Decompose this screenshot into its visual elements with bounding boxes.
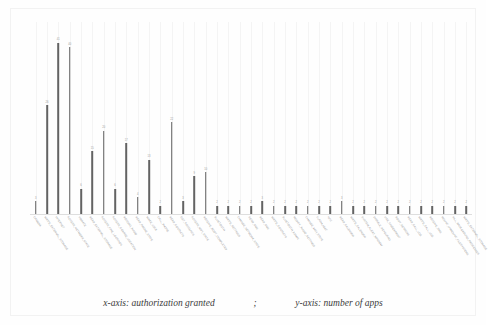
bar-group: 2 bbox=[245, 22, 256, 214]
x-tick-label: READ_SMS bbox=[259, 216, 270, 230]
bar-group: 9 bbox=[189, 22, 200, 214]
bar-value-label: 3 bbox=[262, 197, 263, 200]
x-tick-label: VIBRATE bbox=[78, 216, 87, 227]
bar-value-label: 9 bbox=[194, 172, 195, 175]
bar bbox=[58, 43, 60, 214]
x-tick-label: FLASHLIGHT bbox=[316, 216, 328, 232]
bar-value-label: 20 bbox=[102, 126, 105, 129]
bar-value-label: 2 bbox=[250, 201, 251, 204]
bar-group: 2 bbox=[302, 22, 313, 214]
bar-group: 2 bbox=[234, 22, 245, 214]
bar-series: 3264140615206174132223910222232222223222… bbox=[30, 22, 472, 214]
bar bbox=[341, 201, 343, 214]
bar bbox=[420, 206, 422, 214]
bar bbox=[364, 206, 366, 214]
bar-group: 2 bbox=[449, 22, 460, 214]
bar-group: 40 bbox=[64, 22, 75, 214]
bar-value-label: 2 bbox=[160, 201, 161, 204]
bar-value-label: 2 bbox=[330, 201, 331, 204]
bar-value-label: 2 bbox=[420, 201, 421, 204]
bar-group: 20 bbox=[98, 22, 109, 214]
bar-group: 22 bbox=[166, 22, 177, 214]
bar bbox=[148, 160, 150, 214]
bar-group: 6 bbox=[109, 22, 120, 214]
bar-group: 2 bbox=[461, 22, 472, 214]
bar-group: 2 bbox=[393, 22, 404, 214]
bar-value-label: 2 bbox=[228, 201, 229, 204]
bar bbox=[307, 206, 309, 214]
bar bbox=[126, 143, 128, 214]
bar bbox=[262, 201, 264, 214]
caption-y-axis: y-axis: number of apps bbox=[295, 298, 382, 308]
bar-value-label: 2 bbox=[375, 201, 376, 204]
bar-value-label: 2 bbox=[216, 201, 217, 204]
bar-value-label: 2 bbox=[398, 201, 399, 204]
bar-value-label: 2 bbox=[273, 201, 274, 204]
bar-group: 2 bbox=[404, 22, 415, 214]
bar-group: 3 bbox=[257, 22, 268, 214]
bar bbox=[80, 189, 82, 214]
bar-group: 2 bbox=[223, 22, 234, 214]
bar-value-label: 10 bbox=[204, 168, 207, 171]
bar bbox=[284, 206, 286, 214]
x-axis-line bbox=[30, 214, 472, 215]
bar bbox=[296, 206, 298, 214]
bar-value-label: 3 bbox=[35, 197, 36, 200]
bar-group: 2 bbox=[347, 22, 358, 214]
bar-group: 2 bbox=[427, 22, 438, 214]
bar-value-label: 6 bbox=[80, 184, 81, 187]
x-tick-label: RECEIVE_BOOT_COMPLETED bbox=[202, 216, 227, 251]
bar-group: 2 bbox=[279, 22, 290, 214]
bar-value-label: 2 bbox=[364, 201, 365, 204]
bar-value-label: 2 bbox=[409, 201, 410, 204]
bar bbox=[216, 206, 218, 214]
x-tick-label: WAKE_LOCK bbox=[146, 216, 158, 232]
bar bbox=[228, 206, 230, 214]
bar bbox=[375, 206, 377, 214]
bar bbox=[69, 47, 71, 214]
bar-group: 2 bbox=[325, 22, 336, 214]
bar-value-label: 3 bbox=[182, 197, 183, 200]
bar bbox=[114, 189, 116, 214]
bar-group: 3 bbox=[177, 22, 188, 214]
x-tick-label: SEND_SMS bbox=[248, 216, 259, 230]
bar-group: 2 bbox=[291, 22, 302, 214]
x-tick-label: NFC bbox=[327, 216, 333, 222]
x-tick-label: BLUETOOTH bbox=[214, 216, 226, 232]
caption-separator: ; bbox=[253, 298, 256, 308]
bar-value-label: 2 bbox=[466, 201, 467, 204]
bar-value-label: 2 bbox=[386, 201, 387, 204]
bar bbox=[318, 206, 320, 214]
bar-value-label: 4 bbox=[137, 193, 138, 196]
bar bbox=[92, 151, 94, 214]
bar bbox=[454, 206, 456, 214]
bar-group: 3 bbox=[336, 22, 347, 214]
bar-value-label: 2 bbox=[432, 201, 433, 204]
caption-x-axis: x-axis: authorization granted bbox=[103, 298, 214, 308]
x-tick-label: INTERNET bbox=[55, 216, 65, 229]
bar-value-label: 2 bbox=[239, 201, 240, 204]
bar-value-label: 2 bbox=[307, 201, 308, 204]
x-tick-label: ACCESS_NETWORK_STATE bbox=[66, 216, 89, 248]
bar-value-label: 2 bbox=[352, 201, 353, 204]
bar-group: 15 bbox=[87, 22, 98, 214]
bar-group: 6 bbox=[75, 22, 86, 214]
bar bbox=[182, 201, 184, 214]
bar-group: 2 bbox=[313, 22, 324, 214]
bar bbox=[443, 206, 445, 214]
bar-group: 2 bbox=[155, 22, 166, 214]
bar bbox=[273, 206, 275, 214]
bar-group: 41 bbox=[53, 22, 64, 214]
bar-value-label: 13 bbox=[148, 155, 151, 158]
bar-group: 26 bbox=[41, 22, 52, 214]
x-tick-label: MODIFY_AUDIO_SETTINGS bbox=[293, 216, 316, 248]
x-tick-label: CALL_PHONE bbox=[157, 216, 170, 233]
bar bbox=[386, 206, 388, 214]
bar-group: 2 bbox=[211, 22, 222, 214]
bar bbox=[205, 172, 207, 214]
bar-value-label: 2 bbox=[443, 201, 444, 204]
bar bbox=[330, 206, 332, 214]
bar-group: 2 bbox=[438, 22, 449, 214]
bar-value-label: 40 bbox=[68, 43, 71, 46]
